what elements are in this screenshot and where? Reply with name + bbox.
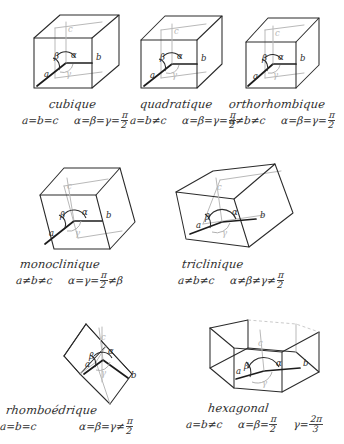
caption-triclinique: triclinique a≠b≠c α≠β≠γ≠π2 [178, 258, 285, 290]
label-alpha-monoclinique: α [82, 207, 88, 217]
label-a-triclinique: a [196, 220, 201, 230]
edges-triclinique: a≠b≠c [177, 274, 215, 286]
system-formula-rhomboedrique: a=b=c α=β=γ≠π2 [0, 417, 135, 436]
label-a-quadratique: a [150, 70, 155, 80]
system-formula-hexagonal: a=b≠c α=β=π2 γ=2π3 [185, 415, 324, 434]
angle-fraction-orthorhombique: π2 [327, 111, 337, 130]
angles-prefix-orthorhombique: α=β=γ= [281, 114, 328, 126]
label-a-orthorhombique: a [253, 71, 258, 81]
angles-prefix-monoclinique: α=γ= [68, 274, 100, 286]
caption-orthorhombique: orthorhombique a≠b≠c α=β=γ=π2 [229, 98, 336, 130]
system-name-monoclinique: monoclinique [19, 258, 123, 270]
system-formula-quadratique: a=b≠c α=β=γ=π2 [129, 111, 238, 130]
angle-fraction-rhomboedrique: π2 [125, 417, 135, 436]
label-c-hexagonal: c [258, 338, 263, 348]
figure-orthorhombique: β α γ a b c [240, 4, 332, 96]
label-beta-hexagonal: β [243, 361, 249, 371]
system-name-orthorhombique: orthorhombique [228, 98, 336, 110]
label-gamma-quadratique: γ [172, 70, 178, 80]
label-gamma-triclinique: γ [222, 228, 228, 238]
figure-monoclinique: β α γ a b c [34, 156, 148, 260]
label-gamma-orthorhombique: γ [273, 70, 279, 80]
figure-rhomboedrique: β α γ a b c [58, 312, 158, 408]
label-c-triclinique: c [217, 182, 222, 192]
label-alpha-hexagonal: α [276, 358, 282, 368]
edges-rhomboedrique: a=b=c [0, 420, 37, 432]
edges-quadratique: a=b≠c [129, 114, 167, 126]
label-b-quadratique: b [201, 53, 206, 63]
label-alpha-cubique: α [71, 50, 77, 60]
label-alpha-triclinique: α [232, 207, 238, 217]
label-c-rhomboedrique: c [101, 332, 106, 342]
system-name-rhomboedrique: rhomboédrique [5, 404, 134, 416]
system-formula-orthorhombique: a≠b≠c α=β=γ=π2 [228, 111, 337, 130]
edges-cubique: a=b=c [21, 114, 59, 126]
label-alpha-orthorhombique: α [278, 52, 284, 62]
caption-cubique: cubique a=b=c α=β=γ=π2 [22, 98, 129, 130]
system-formula-triclinique: a≠b≠c α≠β≠γ≠π2 [177, 271, 286, 290]
system-name-hexagonal: hexagonal [207, 402, 324, 414]
angles-prefix-cubique: α=β=γ= [74, 114, 121, 126]
label-alpha-rhomboedrique: α [108, 346, 114, 356]
label-beta-monoclinique: β [59, 210, 65, 220]
gamma-fraction-hexagonal: 2π3 [308, 415, 323, 434]
label-b-orthorhombique: b [300, 53, 305, 63]
label-beta-orthorhombique: β [261, 53, 267, 63]
label-beta-cubique: β [53, 51, 59, 61]
label-b-monoclinique: b [106, 210, 111, 220]
system-name-quadratique: quadratique [139, 98, 237, 110]
figure-cubique: β α γ a b c [26, 4, 124, 96]
angles-prefix-rhomboedrique: α=β=γ≠ [79, 420, 126, 432]
caption-rhomboedrique: rhomboédrique a=b=c α=β=γ≠π2 [0, 404, 134, 436]
label-gamma-monoclinique: γ [75, 228, 81, 238]
label-gamma-cubique: γ [66, 69, 72, 79]
crystal-systems-sheet: β α γ a b c cubique a=b=c α=β=γ=π2 [0, 0, 344, 444]
label-alpha-quadratique: α [177, 51, 183, 61]
angles-prefix-hexagonal: α=β= [238, 418, 270, 430]
label-b-rhomboedrique: b [131, 370, 136, 380]
label-a-cubique: a [44, 69, 49, 79]
system-name-triclinique: triclinique [181, 258, 285, 270]
label-c-monoclinique: c [67, 181, 72, 191]
angle-fraction-triclinique: π2 [276, 271, 286, 290]
figure-triclinique: β α γ a b c [172, 158, 312, 260]
system-formula-monoclinique: a≠b≠c α=γ=π2≠β [15, 271, 124, 290]
label-beta-triclinique: β [204, 212, 210, 222]
label-b-hexagonal: b [303, 358, 308, 368]
label-beta-quadratique: β [159, 52, 165, 62]
angle-fraction-cubique: π2 [120, 111, 130, 130]
edges-orthorhombique: a≠b≠c [228, 114, 266, 126]
label-a-monoclinique: a [49, 228, 54, 238]
gamma-prefix-hexagonal: γ= [293, 418, 309, 430]
label-b-cubique: b [96, 52, 101, 62]
system-name-cubique: cubique [48, 98, 129, 110]
angles-prefix-quadratique: α=β=γ= [182, 114, 229, 126]
system-formula-cubique: a=b=c α=β=γ=π2 [21, 111, 130, 130]
edges-monoclinique: a≠b≠c [15, 274, 53, 286]
label-gamma-rhomboedrique: γ [101, 368, 107, 378]
angle-fraction-hexagonal: π2 [269, 415, 279, 434]
caption-hexagonal: hexagonal a=b≠c α=β=π2 γ=2π3 [186, 402, 323, 434]
caption-quadratique: quadratique a=b≠c α=β=γ=π2 [130, 98, 237, 130]
label-c-cubique: c [68, 24, 73, 34]
label-a-hexagonal: a [236, 366, 241, 376]
figure-hexagonal: β α γ a b c [200, 314, 334, 408]
angles-suffix-monoclinique: ≠β [108, 274, 124, 286]
label-b-triclinique: b [260, 210, 265, 220]
label-c-quadratique: c [174, 26, 179, 36]
caption-monoclinique: monoclinique a≠b≠c α=γ=π2≠β [16, 258, 123, 290]
edges-hexagonal: a=b≠c [185, 418, 223, 430]
label-c-orthorhombique: c [275, 28, 280, 38]
figure-quadratique: β α γ a b c [134, 4, 230, 96]
angles-prefix-triclinique: α≠β≠γ≠ [230, 274, 277, 286]
label-a-rhomboedrique: a [85, 359, 90, 369]
